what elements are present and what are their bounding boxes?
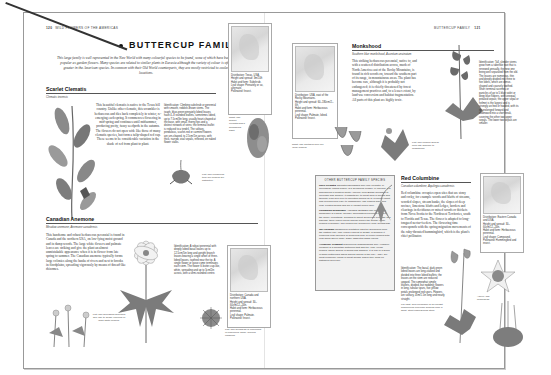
- fact-pollinated: Pollinated: Insect.: [295, 117, 335, 120]
- anemone-seedhead-illustration: [197, 306, 225, 330]
- species-identification: Identification: A robust perennial with …: [174, 245, 222, 276]
- fact-habit: Habit and form: Herbaceous perennial.: [295, 107, 335, 114]
- fact-distribution: Distribution: USA, east of the Rocky Mou…: [295, 94, 335, 101]
- species-body: Red columbine occupies open sites that a…: [401, 191, 471, 238]
- caption-columbine-left: Far right: Red columbine is an upright h…: [401, 303, 445, 313]
- facts-list: Distribution: Eastern Canada and USA. He…: [483, 216, 521, 246]
- right-page-number: 121: [474, 26, 480, 30]
- other-species-item: Tall Larkspur Delphinium exaltatum This …: [319, 228, 391, 241]
- species-heading: Red Columbine: [401, 175, 471, 183]
- page-title-text: BUTTERCUP FAMILY: [129, 40, 238, 50]
- right-folio: BUTTERCUP FAMILY 121: [434, 26, 484, 30]
- species-identification: Identification: Tall, slender stems grow…: [479, 61, 519, 126]
- monkshood-flowers-illustration: [331, 123, 367, 163]
- facts-list: Distribution: USA, east of the Rocky Mou…: [295, 94, 335, 120]
- fact-habit: Habit and form: Herbaceous perennial.: [230, 307, 268, 314]
- columbine-habit-illustration: [492, 299, 524, 349]
- right-running-head: BUTTERCUP FAMILY: [434, 26, 470, 30]
- other-species-item: Allegheny Crowfoot Ranunculus alleghenie…: [319, 243, 391, 263]
- caption-monkshood-left: Right: The southern blue flor (wild) flo…: [292, 143, 330, 149]
- species-body: This handsome and robust herbaceous pere…: [46, 233, 126, 272]
- species-identification: Identification: Climbing subshrub or per…: [164, 104, 216, 145]
- caption-monkshood-right: Left: The flowers appear from late summe…: [412, 141, 442, 151]
- left-folio: 120WILD FLOWERS OF THE AMERICAS: [46, 26, 118, 30]
- anemone-colony-illustration: [44, 303, 104, 348]
- species-body: This striking herbaceous perennial, nati…: [352, 59, 418, 102]
- fact-pollinated: Pollinated: Insect.: [231, 90, 269, 93]
- caption-anemone-right: Left: The seedhead is composed of numero…: [225, 328, 263, 338]
- caption-clematis-right: Right: The scarlet clematis has a scramb…: [229, 116, 245, 132]
- other-species-text: The Allegheny crowfoot is a mountain but…: [319, 243, 390, 262]
- species-body: This beautiful clematis is native to the…: [94, 103, 162, 146]
- columbine-illustration: [442, 245, 482, 345]
- distribution-map: [295, 46, 335, 92]
- clematis-habit-illustration: [246, 116, 270, 160]
- species-latin: Southern blue monkshood, Aconitum uncina…: [352, 52, 411, 56]
- distribution-map-box: Distribution: Canada and northern USA. H…: [227, 245, 271, 328]
- caption-clematis-left: Left: The pendulous, tulip-like flowers …: [202, 173, 226, 183]
- distribution-map-box: Distribution: Texas, USA. Height and spr…: [228, 23, 272, 115]
- species-latin: Canadian columbine, Aquilegia canadensis: [401, 184, 454, 188]
- species-identification: Identification: The basal, dark green lo…: [401, 267, 445, 301]
- facts-list: Distribution: Texas, USA. Height and spr…: [231, 74, 269, 94]
- fact-distribution: Distribution: Canada and northern USA.: [230, 294, 268, 301]
- rock-clematis-illustration: [366, 183, 396, 223]
- species-latin: Meadow anemone, Anemone canadensis: [46, 225, 97, 229]
- species-heading: Scarlet Clematis: [46, 86, 216, 94]
- book-spread: 120WILD FLOWERS OF THE AMERICAS BUTTERCU…: [23, 12, 505, 369]
- distribution-map-box: Distribution: Eastern Canada and USA. He…: [480, 173, 524, 253]
- fact-pollinated: Pollinated: Hummingbird and insect.: [483, 239, 521, 246]
- facts-list: Distribution: Canada and northern USA. H…: [230, 294, 268, 320]
- anemone-illustration: [116, 235, 176, 345]
- left-page-number: 120: [46, 26, 52, 30]
- species-latin: Clematis texensis: [46, 95, 68, 99]
- columbine-flowerhead-illustration: [479, 258, 517, 294]
- species-heading: Canadian Anemone: [46, 216, 258, 224]
- clematis-flower-illustration: [166, 158, 196, 190]
- distribution-map: [230, 248, 268, 292]
- fact-habit: Habit and form: Herbaceous perennial.: [483, 229, 521, 236]
- intro-paragraph: This large family is well represented in…: [56, 56, 236, 76]
- fact-distribution: Distribution: Eastern Canada and USA.: [483, 216, 521, 223]
- distribution-map: [231, 26, 269, 72]
- monkshood-foliage-illustration: [375, 123, 415, 163]
- page-title: BUTTERCUP FAMILY: [119, 40, 238, 50]
- fact-pollinated: Pollinated: Insect.: [230, 317, 268, 320]
- other-species-title: OTHER BUTTERCUP FAMILY SPECIES: [319, 179, 391, 182]
- distribution-map: [483, 176, 521, 214]
